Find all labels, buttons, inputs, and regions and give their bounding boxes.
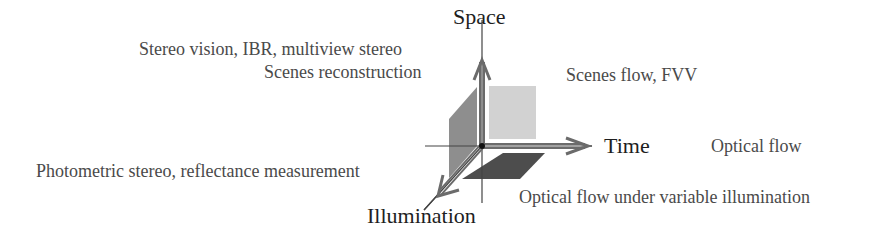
space-time-plane: [489, 86, 536, 139]
illumination-axis-label: Illumination: [367, 205, 476, 227]
origin-dot: [479, 143, 485, 149]
stereo-vision-label: Stereo vision, IBR, multiview stereo: [139, 40, 402, 58]
photometric-stereo-label: Photometric stereo, reflectance measurem…: [36, 162, 360, 180]
scenes-flow-label: Scenes flow, FVV: [566, 66, 697, 84]
space-axis-label: Space: [453, 6, 506, 28]
time-axis-label: Time: [604, 135, 650, 157]
scenes-reconstruction-label: Scenes reconstruction: [264, 63, 421, 81]
optical-flow-label: Optical flow: [711, 137, 801, 155]
optical-flow-variable-illumination-label: Optical flow under variable illumination: [519, 188, 810, 206]
